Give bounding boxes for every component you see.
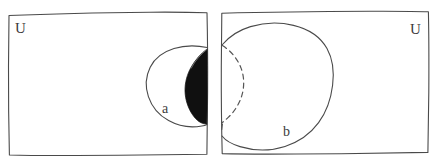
set-circle-b: [222, 23, 333, 150]
venn-diagram-svg: U a U b: [0, 0, 438, 168]
set-label-a: a: [162, 101, 169, 116]
universe-label-left: U: [15, 20, 26, 36]
universe-rectangle-left: [8, 12, 207, 155]
set-label-b: b: [283, 124, 290, 139]
left-panel: U a: [8, 12, 207, 155]
universe-rectangle-right: [221, 11, 429, 154]
dashed-boundary-arc: [222, 46, 243, 123]
right-panel: U b: [221, 11, 429, 154]
universe-label-right: U: [410, 21, 421, 37]
dashed-arc-tail-bottom: [222, 124, 223, 130]
diagram-canvas: U a U b: [0, 0, 438, 168]
